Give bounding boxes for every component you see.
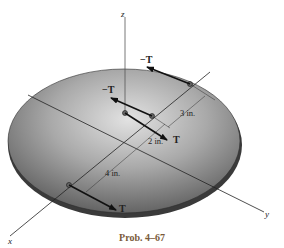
force-label-t-lower: T (119, 203, 126, 214)
dimension-label-2in: 2 in. (148, 136, 163, 146)
force-label-t-origin: T (173, 134, 180, 145)
z-axis-label: z (120, 9, 125, 19)
diagram-canvas: z x y −T −T T T 3 in. 2 in. 4 in. (0, 0, 284, 248)
figure-caption: Prob. 4–67 (0, 232, 284, 243)
y-axis-label: y (264, 209, 269, 219)
dimension-label-3in: 3 in. (180, 108, 195, 118)
force-label-neg-t-top: −T (140, 54, 153, 65)
dimension-label-4in: 4 in. (105, 168, 120, 178)
force-label-neg-t-mid: −T (102, 84, 115, 95)
disk-face (8, 69, 240, 213)
